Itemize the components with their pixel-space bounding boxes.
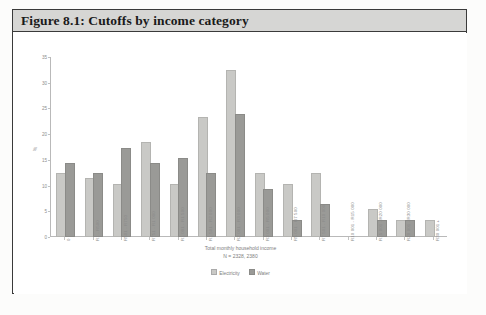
- y-tick-label: 30: [42, 80, 47, 85]
- legend-swatch-electricity: [211, 269, 217, 275]
- x-tick-mark: [263, 237, 264, 240]
- x-tick-label: R1 501 - R2 000: [208, 207, 213, 241]
- y-tick-label: 0: [44, 235, 47, 240]
- x-tick-mark: [121, 237, 122, 240]
- x-tick-mark: [93, 237, 94, 240]
- x-tick-label: R3 001 - R5 000: [265, 207, 270, 241]
- x-tick-mark: [376, 237, 377, 240]
- x-tick-label: R1 001 - R1 500: [180, 207, 185, 241]
- y-tick-label: 25: [42, 106, 47, 111]
- y-tick-mark: [48, 134, 50, 135]
- y-axis-label: %: [32, 147, 38, 151]
- y-tick-mark: [48, 108, 50, 109]
- y-tick-label: 35: [42, 55, 47, 60]
- y-axis-line: [50, 57, 51, 237]
- y-tick-mark: [48, 160, 50, 161]
- x-tick-label: R1 - R500: [95, 220, 100, 241]
- bar-group: [112, 57, 130, 237]
- x-tick-label: R2 001 - R3 000: [236, 207, 241, 241]
- x-tick-label: R20 001 - R30 000: [406, 202, 411, 241]
- x-tick-mark: [433, 237, 434, 240]
- y-tick-label: 20: [42, 132, 47, 137]
- x-tick-label: R30 001 +: [435, 220, 440, 241]
- legend-item-electricity: Electricity: [211, 271, 240, 276]
- chart-legend: Electricity Water: [14, 269, 467, 276]
- x-tick-label: R10 001 - R15 000: [350, 202, 355, 241]
- x-tick-label: R501 - R750: [123, 215, 128, 241]
- x-tick-mark: [348, 237, 349, 240]
- figure-container: Figure 8.1: Cutoffs by income category %…: [12, 9, 467, 294]
- x-axis-line: [50, 236, 447, 237]
- x-tick-label: R5 001 - R7 500: [293, 207, 298, 241]
- legend-label-electricity: Electricity: [219, 271, 240, 276]
- y-tick-mark: [48, 186, 50, 187]
- bar-group: [140, 57, 158, 237]
- x-tick-mark: [178, 237, 179, 240]
- y-tick-mark: [48, 211, 50, 212]
- legend-item-water: Water: [249, 271, 270, 276]
- legend-swatch-water: [249, 269, 255, 275]
- x-tick-label: R751 - R1 000: [151, 211, 156, 241]
- x-tick-label: R7 501 - R10 000: [321, 205, 326, 241]
- x-tick-mark: [206, 237, 207, 240]
- y-tick-mark: [48, 57, 50, 58]
- x-tick-label: R15 001 - R20 000: [378, 202, 383, 241]
- legend-label-water: Water: [257, 271, 270, 276]
- x-tick-mark: [291, 237, 292, 240]
- bar-group: [424, 57, 442, 237]
- y-tick-mark: [48, 237, 50, 238]
- y-tick-label: 15: [42, 157, 47, 162]
- bar-water: [65, 163, 75, 237]
- sample-size-label: N = 2328, 2380: [14, 253, 467, 259]
- x-tick-label: 0: [66, 238, 71, 241]
- y-tick-label: 5: [44, 209, 47, 214]
- bar-electricity: [425, 220, 435, 237]
- y-tick-label: 10: [42, 183, 47, 188]
- chart-plot-area: % 05101520253035 0R1 - R500R501 - R750R7…: [14, 33, 467, 294]
- page-root: Figure 8.1: Cutoffs by income category %…: [0, 0, 486, 315]
- page-title: Figure 8.1: Cutoffs by income category: [21, 13, 249, 29]
- bar-group: [55, 57, 73, 237]
- x-axis-title: Total monthly household income: [14, 245, 467, 251]
- bar-group: [84, 57, 102, 237]
- y-tick-mark: [48, 83, 50, 84]
- chart-axes: 05101520253035: [50, 57, 447, 237]
